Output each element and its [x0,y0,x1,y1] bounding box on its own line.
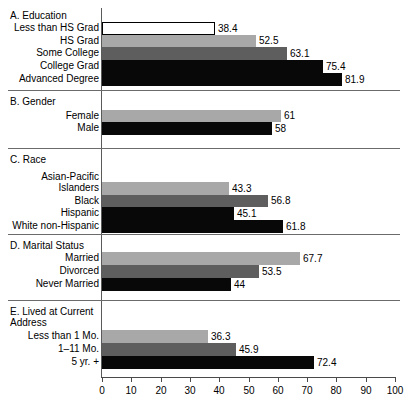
category-label: Asian-Pacific Islanders [0,171,99,193]
panel-title-e: E. Lived at Current Address [10,306,93,328]
bar-value-label: 72.4 [316,357,337,368]
bar-value-label: 81.9 [344,74,365,85]
bar [102,356,314,369]
category-label: White non-Hispanic [0,220,99,231]
category-label: 1–11 Mo. [0,343,99,354]
bar [102,207,234,220]
panel-separator-1 [8,90,400,91]
x-axis-tick [161,377,162,382]
panel-separator-3 [8,234,400,235]
bar [102,265,259,278]
bar [102,47,287,60]
x-axis-tick [307,377,308,382]
x-axis-tick-label: 80 [321,385,351,396]
category-label: Male [0,122,99,133]
category-label: Black [0,195,99,206]
bar [102,73,342,86]
category-label: Divorced [0,265,99,276]
bar-value-label: 75.4 [325,61,346,72]
x-axis-tick [278,377,279,382]
bar-value-label: 44 [233,279,246,290]
bar [102,60,323,73]
bar-value-label: 61.8 [285,221,306,232]
category-label: 5 yr. + [0,356,99,367]
x-axis-tick [249,377,250,382]
bar [102,330,208,343]
bar-value-label: 43.3 [231,183,252,194]
x-axis-line [101,377,395,378]
bar [102,278,231,291]
x-axis-tick-label: 60 [263,385,293,396]
bar [102,343,236,356]
x-axis-tick [102,377,103,382]
bar [102,252,300,265]
x-axis-tick-label: 10 [116,385,146,396]
x-axis-tick [366,377,367,382]
panel-title-c: C. Race [10,154,46,165]
bar [102,122,272,135]
panel-title-b: B. Gender [10,96,56,107]
bar [102,35,256,47]
x-axis-tick [190,377,191,382]
x-axis-tick-label: 100 [380,385,404,396]
category-label: Married [0,252,99,263]
bar-value-label: 53.5 [261,266,282,277]
x-axis-tick [131,377,132,382]
x-axis-tick-label: 70 [292,385,322,396]
bar-value-label: 67.7 [302,253,323,264]
panel-title-a: A. Education [10,10,67,21]
bar-value-label: 52.5 [258,35,279,46]
x-axis-tick-label: 50 [234,385,264,396]
panel-title-d: D. Marital Status [10,240,84,251]
bar-value-label: 58 [274,123,287,134]
x-axis-tick-label: 40 [204,385,234,396]
category-label: Female [0,110,99,121]
category-label: Less than 1 Mo. [0,330,99,341]
bar-value-label: 56.8 [270,195,291,206]
bar [102,22,215,35]
category-label: Less than HS Grad [0,22,99,33]
x-axis-tick [336,377,337,382]
x-axis-tick-label: 20 [146,385,176,396]
x-axis-tick [395,377,396,382]
bar [102,182,229,195]
bar [102,195,268,207]
x-axis-tick [219,377,220,382]
bar-chart-figure: A. EducationLess than HS Grad38.4HS Grad… [0,0,404,408]
x-axis-tick-label: 90 [351,385,381,396]
panel-separator-2 [8,148,400,149]
bar-value-label: 45.9 [238,344,259,355]
x-axis-tick-label: 30 [175,385,205,396]
bar [102,220,283,233]
category-label: Never Married [0,278,99,289]
x-axis-tick-label: 0 [87,385,117,396]
category-label: HS Grad [0,35,99,46]
category-label: College Grad [0,60,99,71]
category-label: Hispanic [0,207,99,218]
bar [102,110,281,122]
category-label: Some College [0,47,99,58]
bar-value-label: 36.3 [210,331,231,342]
bar-value-label: 63.1 [289,48,310,59]
panel-separator-4 [8,300,400,301]
bar-value-label: 38.4 [217,23,238,34]
bar-value-label: 45.1 [236,208,257,219]
bar-value-label: 61 [283,110,296,121]
category-label: Advanced Degree [0,73,99,84]
